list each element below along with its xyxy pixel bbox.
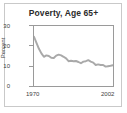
chart-title: Poverty, Age 65+ bbox=[0, 8, 127, 18]
data-series-line bbox=[34, 26, 113, 86]
y-tick-label-20: 20 bbox=[0, 43, 10, 49]
y-tick-label-30: 30 bbox=[0, 23, 10, 29]
x-tick-label-end: 2002 bbox=[101, 91, 114, 98]
figure-container: Poverty, Age 65+ Percent 30 20 10 0 1970… bbox=[0, 0, 127, 113]
plot-area bbox=[33, 25, 114, 87]
y-tick-label-0: 0 bbox=[0, 83, 10, 89]
x-tick-label-start: 1970 bbox=[26, 91, 39, 98]
y-tick-label-10: 10 bbox=[0, 63, 10, 69]
